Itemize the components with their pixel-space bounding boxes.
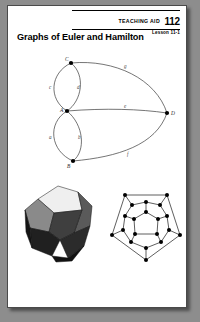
- edge-e-path: [67, 109, 167, 113]
- hamilton-vertex: [165, 193, 169, 197]
- hamilton-inner-ring: [134, 212, 158, 234]
- hamilton-vertex: [132, 217, 136, 221]
- edge-label-c: c: [49, 84, 52, 90]
- hamilton-vertex: [130, 203, 134, 207]
- vertex-label-C: C: [65, 56, 69, 62]
- hamilton-vertex: [121, 228, 125, 232]
- hamilton-vertex: [123, 214, 127, 218]
- hamilton-vertex: [144, 258, 148, 262]
- edge-f-path: [73, 113, 167, 161]
- hamilton-vertex: [144, 210, 148, 214]
- edge-label-e: e: [124, 103, 127, 109]
- teaching-aid-label: TEACHING AID: [119, 18, 160, 24]
- hamilton-vertex: [144, 246, 148, 250]
- hamilton-vertex: [123, 193, 127, 197]
- hamilton-graph-figure: [108, 184, 184, 268]
- hamilton-inner-spokes: [125, 202, 167, 242]
- edge-c-path: [54, 63, 71, 111]
- edge-label-b: b: [78, 134, 81, 140]
- edge-a-path: [54, 111, 73, 161]
- dodecahedron-faces: [25, 186, 92, 262]
- edge-label-g: g: [124, 63, 127, 69]
- worksheet-page: TEACHING AID 112 Lesson 11-1 Graphs of E…: [7, 5, 187, 308]
- euler-vertices: [65, 61, 169, 163]
- hamilton-vertex: [129, 240, 133, 244]
- teaching-aid-number: 112: [164, 16, 180, 27]
- euler-graph-figure: C A B D c d a b e g f: [20, 53, 180, 170]
- vertex-label-A: A: [59, 107, 64, 113]
- hamilton-vertex: [133, 232, 137, 236]
- euler-edges: [54, 62, 167, 161]
- hamilton-vertex: [178, 233, 182, 237]
- vertex-label-B: B: [67, 163, 71, 169]
- vertex-A-dot: [65, 109, 69, 113]
- hamilton-vertex: [155, 232, 159, 236]
- hamilton-vertex: [159, 240, 163, 244]
- vertex-label-D: D: [170, 110, 175, 116]
- euler-vertex-labels: C A B D: [59, 56, 175, 169]
- dodecahedron-figure: [20, 182, 98, 266]
- inner-pentagon-path: [134, 212, 158, 234]
- vertex-D-dot: [165, 111, 169, 115]
- hamilton-vertex: [144, 200, 148, 204]
- edge-g-path: [71, 62, 167, 113]
- vertex-C-dot: [69, 61, 73, 65]
- page-title: Graphs of Euler and Hamilton: [17, 32, 144, 42]
- hamilton-vertex: [156, 217, 160, 221]
- vertex-B-dot: [71, 159, 75, 163]
- hamilton-vertex: [167, 228, 171, 232]
- hamilton-vertex: [165, 214, 169, 218]
- hamilton-vertex: [158, 203, 162, 207]
- edge-label-f: f: [127, 151, 130, 157]
- hamilton-vertex: [110, 233, 114, 237]
- edge-label-a: a: [49, 134, 52, 140]
- edge-label-d: d: [77, 84, 80, 90]
- teaching-aid-line: TEACHING AID 112: [72, 12, 180, 29]
